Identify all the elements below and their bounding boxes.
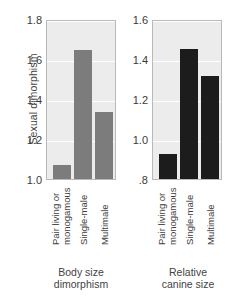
bar-multimale	[201, 76, 219, 179]
x-label-line2: monogamous	[61, 187, 72, 245]
x-label-line1: Single-male	[184, 195, 195, 245]
caption-relative-canine-size: Relative canine size	[138, 266, 238, 290]
y-tick-right-1.4: 1.4	[120, 55, 148, 66]
gridline	[47, 21, 115, 22]
y-tick-right-1.6: 1.6	[120, 15, 148, 26]
x-label-right-pair-living: Pair living or	[157, 193, 167, 245]
bar-multimale	[95, 112, 113, 179]
caption-body-size-dimorphism: Body size dimorphism	[31, 266, 131, 290]
y-tick-left-1.8: 1.8	[14, 15, 42, 26]
caption-line1: Body size	[31, 266, 131, 278]
caption-line2: dimorphism	[31, 278, 131, 290]
x-label-line2: monogamous	[167, 187, 178, 245]
x-label-line1: Multimale	[205, 204, 216, 245]
x-label-left-single-male: Single-male	[79, 195, 89, 245]
x-label-line1: Pair living or	[156, 193, 167, 245]
plot-area-left	[46, 20, 116, 180]
plot-area-right	[152, 20, 222, 180]
y-tick-left-1.4: 1.4	[14, 95, 42, 106]
caption-line1: Relative	[138, 266, 238, 278]
y-tick-right-1.2: 1.2	[120, 95, 148, 106]
y-tick-right-0.8: .8	[120, 175, 148, 186]
chart-figure: Sexual dimorphism 1.8 1.6 1.4 1.2 1.0 Pa…	[0, 0, 240, 306]
x-label-left-multimale: Multimale	[100, 204, 110, 245]
caption-line2: canine size	[138, 278, 238, 290]
bar-pair-living-monogamous	[159, 154, 177, 179]
bar-single-male	[180, 49, 198, 179]
panel-body-size-dimorphism	[46, 20, 116, 180]
panel-relative-canine-size	[152, 20, 222, 180]
y-tick-left-1.2: 1.2	[14, 135, 42, 146]
gridline	[153, 21, 221, 22]
bar-pair-living-monogamous	[53, 165, 71, 179]
y-tick-right-1.0: 1.0	[120, 135, 148, 146]
y-tick-left-1.0: 1.0	[14, 175, 42, 186]
x-label-line1: Pair living or	[50, 193, 61, 245]
x-label-right-monogamous: monogamous	[168, 187, 178, 245]
bar-single-male	[74, 50, 92, 179]
x-label-line1: Single-male	[78, 195, 89, 245]
x-label-left-pair-living: Pair living or	[51, 193, 61, 245]
x-label-line1: Multimale	[99, 204, 110, 245]
y-tick-left-1.6: 1.6	[14, 55, 42, 66]
x-label-left-monogamous: monogamous	[62, 187, 72, 245]
x-label-right-single-male: Single-male	[185, 195, 195, 245]
x-label-right-multimale: Multimale	[206, 204, 216, 245]
